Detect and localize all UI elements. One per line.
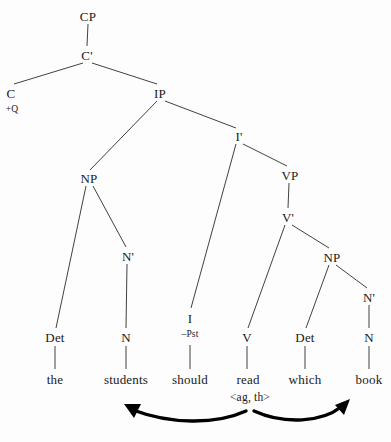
tree-node-nbar-obj: N' <box>363 291 375 304</box>
tree-node-i: I <box>188 312 193 325</box>
tree-node-np-subj: NP <box>80 172 97 185</box>
tree-node-i-feature: –Pst <box>182 330 199 340</box>
tree-node-ibar: I' <box>235 130 242 143</box>
tree-node-labels: CPC'C+QIPI'NPVPN'V'NPN'DetNI–PstVDetNthe… <box>0 0 391 442</box>
tree-node-vp: VP <box>281 169 298 182</box>
tree-node-word-read: read <box>236 373 259 386</box>
tree-node-cp: CP <box>80 10 96 23</box>
tree-node-c-feature: +Q <box>6 105 18 115</box>
tree-node-cbar: C' <box>81 49 92 62</box>
tree-node-np-obj: NP <box>323 251 340 264</box>
tree-node-nbar-subj: N' <box>122 250 134 263</box>
tree-node-word-should: should <box>172 373 208 386</box>
tree-node-v: V <box>242 331 252 344</box>
tree-node-det-subj: Det <box>45 331 64 344</box>
tree-node-ip: IP <box>154 87 166 100</box>
syntax-tree-figure: CPC'C+QIPI'NPVPN'V'NPN'DetNI–PstVDetNthe… <box>0 0 391 442</box>
tree-node-det-obj: Det <box>295 331 314 344</box>
tree-node-word-book: book <box>356 373 383 386</box>
tree-node-c: C <box>7 87 16 100</box>
tree-node-vbar: V' <box>282 211 294 224</box>
tree-node-n-subj: N <box>121 331 131 344</box>
tree-node-word-students: students <box>104 373 148 386</box>
tree-node-theta-roles: <ag, th> <box>230 392 270 404</box>
tree-node-n-obj: N <box>364 331 374 344</box>
tree-node-word-the: the <box>47 373 63 386</box>
tree-node-word-which: which <box>289 373 322 386</box>
